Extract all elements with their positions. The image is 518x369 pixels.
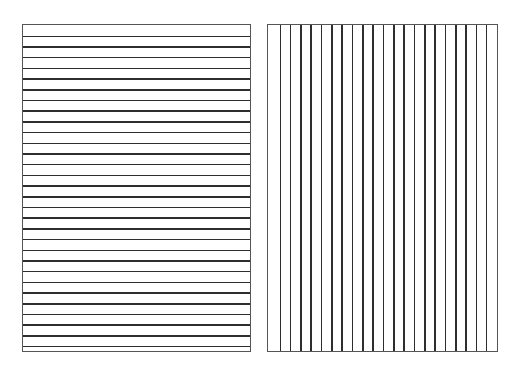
horizontal-line [23, 36, 250, 38]
horizontal-line [23, 217, 250, 219]
horizontal-line [23, 164, 250, 166]
horizontal-line [23, 100, 250, 102]
vertical-line [383, 25, 385, 351]
vertical-line [476, 25, 478, 351]
vertical-line [300, 25, 302, 351]
horizontal-line [23, 143, 250, 145]
horizontal-line [23, 207, 250, 209]
horizontal-line [23, 175, 250, 177]
horizontal-line [23, 314, 250, 316]
horizontal-line [23, 110, 250, 112]
vertical-line [424, 25, 426, 351]
vertical-line [321, 25, 323, 351]
horizontal-line [23, 57, 250, 59]
horizontal-line [23, 282, 250, 284]
horizontal-line [23, 121, 250, 123]
vertical-line [310, 25, 312, 351]
vertical-line [362, 25, 364, 351]
horizontal-line [23, 335, 250, 337]
vertical-line [414, 25, 416, 351]
horizontal-line [23, 153, 250, 155]
vertical-lines-panel [267, 24, 498, 352]
vertical-line [445, 25, 447, 351]
horizontal-line [23, 346, 250, 348]
horizontal-line [23, 68, 250, 70]
horizontal-line [23, 78, 250, 80]
horizontal-lines-panel [22, 24, 251, 352]
horizontal-line [23, 250, 250, 252]
horizontal-line [23, 132, 250, 134]
horizontal-line [23, 196, 250, 198]
vertical-line [290, 25, 292, 351]
horizontal-line [23, 324, 250, 326]
vertical-line [331, 25, 333, 351]
horizontal-line [23, 260, 250, 262]
horizontal-line [23, 46, 250, 48]
horizontal-line [23, 292, 250, 294]
vertical-line [280, 25, 282, 351]
vertical-line [352, 25, 354, 351]
vertical-line [434, 25, 436, 351]
vertical-line [403, 25, 405, 351]
horizontal-line [23, 185, 250, 187]
horizontal-line [23, 228, 250, 230]
horizontal-line [23, 89, 250, 91]
vertical-line [393, 25, 395, 351]
vertical-line [486, 25, 488, 351]
vertical-line [465, 25, 467, 351]
horizontal-line [23, 303, 250, 305]
horizontal-line [23, 239, 250, 241]
vertical-line [341, 25, 343, 351]
vertical-line [455, 25, 457, 351]
vertical-line [372, 25, 374, 351]
horizontal-line [23, 271, 250, 273]
